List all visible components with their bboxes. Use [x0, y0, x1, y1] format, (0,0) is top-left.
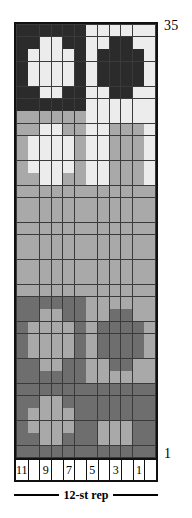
chart-cell-white-stitch[interactable] [144, 161, 155, 173]
chart-cell-black-stitch[interactable] [28, 87, 39, 99]
chart-cell-gray-stitch[interactable] [17, 173, 28, 185]
chart-cell-black-stitch[interactable] [75, 25, 86, 37]
chart-cell-gray-stitch[interactable] [40, 309, 51, 321]
chart-cell-gray-stitch[interactable] [98, 223, 109, 235]
chart-cell-dark-gray-stitch[interactable] [121, 359, 132, 371]
chart-cell-white-stitch[interactable] [63, 161, 74, 173]
chart-cell-black-stitch[interactable] [17, 99, 28, 111]
chart-cell-dark-gray-stitch[interactable] [86, 396, 97, 408]
chart-cell-gray-stitch[interactable] [40, 198, 51, 210]
chart-cell-gray-stitch[interactable] [17, 111, 28, 123]
chart-cell-white-stitch[interactable] [133, 25, 144, 37]
chart-cell-gray-stitch[interactable] [52, 359, 63, 371]
chart-cell-white-stitch[interactable] [144, 25, 155, 37]
chart-cell-gray-stitch[interactable] [121, 260, 132, 272]
chart-cell-black-stitch[interactable] [40, 99, 51, 111]
chart-cell-white-stitch[interactable] [98, 99, 109, 111]
chart-cell-white-stitch[interactable] [28, 49, 39, 61]
chart-cell-gray-stitch[interactable] [28, 210, 39, 222]
chart-cell-black-stitch[interactable] [75, 49, 86, 61]
chart-cell-dark-gray-stitch[interactable] [63, 309, 74, 321]
chart-cell-gray-stitch[interactable] [40, 285, 51, 297]
chart-cell-white-stitch[interactable] [98, 161, 109, 173]
chart-cell-dark-gray-stitch[interactable] [28, 359, 39, 371]
chart-cell-dark-gray-stitch[interactable] [17, 359, 28, 371]
chart-cell-gray-stitch[interactable] [133, 124, 144, 136]
chart-cell-white-stitch[interactable] [86, 124, 97, 136]
chart-cell-gray-stitch[interactable] [63, 210, 74, 222]
chart-cell-gray-stitch[interactable] [110, 136, 121, 148]
chart-cell-gray-stitch[interactable] [144, 309, 155, 321]
chart-cell-gray-stitch[interactable] [75, 235, 86, 247]
chart-cell-gray-stitch[interactable] [40, 111, 51, 123]
chart-cell-gray-stitch[interactable] [52, 334, 63, 346]
chart-cell-dark-gray-stitch[interactable] [86, 421, 97, 433]
chart-cell-gray-stitch[interactable] [110, 297, 121, 309]
chart-cell-gray-stitch[interactable] [133, 223, 144, 235]
chart-cell-gray-stitch[interactable] [133, 173, 144, 185]
chart-cell-dark-gray-stitch[interactable] [40, 384, 51, 396]
chart-cell-gray-stitch[interactable] [63, 247, 74, 259]
chart-cell-dark-gray-stitch[interactable] [63, 297, 74, 309]
chart-cell-white-stitch[interactable] [98, 124, 109, 136]
chart-cell-gray-stitch[interactable] [52, 408, 63, 420]
chart-cell-gray-stitch[interactable] [133, 309, 144, 321]
chart-cell-dark-gray-stitch[interactable] [144, 384, 155, 396]
chart-cell-gray-stitch[interactable] [121, 161, 132, 173]
chart-cell-black-stitch[interactable] [121, 62, 132, 74]
chart-cell-gray-stitch[interactable] [110, 210, 121, 222]
chart-cell-gray-stitch[interactable] [121, 223, 132, 235]
chart-cell-white-stitch[interactable] [40, 37, 51, 49]
chart-cell-gray-stitch[interactable] [144, 285, 155, 297]
chart-cell-gray-stitch[interactable] [121, 136, 132, 148]
chart-cell-gray-stitch[interactable] [121, 210, 132, 222]
chart-cell-gray-stitch[interactable] [28, 285, 39, 297]
chart-cell-white-stitch[interactable] [40, 148, 51, 160]
chart-cell-gray-stitch[interactable] [40, 322, 51, 334]
chart-cell-gray-stitch[interactable] [63, 285, 74, 297]
chart-cell-gray-stitch[interactable] [133, 198, 144, 210]
chart-cell-gray-stitch[interactable] [40, 396, 51, 408]
chart-cell-gray-stitch[interactable] [110, 173, 121, 185]
chart-cell-dark-gray-stitch[interactable] [75, 446, 86, 458]
chart-cell-gray-stitch[interactable] [63, 111, 74, 123]
chart-cell-gray-stitch[interactable] [121, 198, 132, 210]
chart-cell-black-stitch[interactable] [110, 74, 121, 86]
chart-cell-dark-gray-stitch[interactable] [133, 346, 144, 358]
chart-cell-white-stitch[interactable] [86, 173, 97, 185]
chart-cell-dark-gray-stitch[interactable] [40, 446, 51, 458]
chart-cell-black-stitch[interactable] [133, 49, 144, 61]
chart-cell-gray-stitch[interactable] [110, 124, 121, 136]
chart-cell-gray-stitch[interactable] [133, 161, 144, 173]
chart-cell-white-stitch[interactable] [40, 49, 51, 61]
chart-cell-white-stitch[interactable] [28, 62, 39, 74]
chart-cell-gray-stitch[interactable] [110, 285, 121, 297]
chart-cell-white-stitch[interactable] [86, 62, 97, 74]
chart-cell-gray-stitch[interactable] [17, 136, 28, 148]
chart-cell-gray-stitch[interactable] [121, 371, 132, 383]
chart-cell-gray-stitch[interactable] [121, 421, 132, 433]
chart-cell-dark-gray-stitch[interactable] [110, 334, 121, 346]
chart-cell-dark-gray-stitch[interactable] [75, 297, 86, 309]
chart-cell-white-stitch[interactable] [110, 111, 121, 123]
chart-cell-black-stitch[interactable] [17, 74, 28, 86]
chart-cell-white-stitch[interactable] [28, 136, 39, 148]
chart-cell-black-stitch[interactable] [110, 62, 121, 74]
chart-cell-gray-stitch[interactable] [98, 309, 109, 321]
chart-cell-gray-stitch[interactable] [52, 198, 63, 210]
chart-cell-dark-gray-stitch[interactable] [17, 421, 28, 433]
chart-cell-white-stitch[interactable] [28, 74, 39, 86]
chart-cell-gray-stitch[interactable] [133, 210, 144, 222]
chart-cell-gray-stitch[interactable] [75, 272, 86, 284]
chart-cell-gray-stitch[interactable] [144, 297, 155, 309]
chart-cell-gray-stitch[interactable] [98, 371, 109, 383]
chart-cell-dark-gray-stitch[interactable] [17, 433, 28, 445]
chart-cell-gray-stitch[interactable] [63, 235, 74, 247]
chart-cell-white-stitch[interactable] [86, 87, 97, 99]
chart-cell-dark-gray-stitch[interactable] [110, 359, 121, 371]
chart-cell-gray-stitch[interactable] [52, 421, 63, 433]
chart-cell-gray-stitch[interactable] [75, 148, 86, 160]
chart-cell-black-stitch[interactable] [98, 49, 109, 61]
chart-cell-gray-stitch[interactable] [86, 272, 97, 284]
chart-cell-white-stitch[interactable] [144, 124, 155, 136]
